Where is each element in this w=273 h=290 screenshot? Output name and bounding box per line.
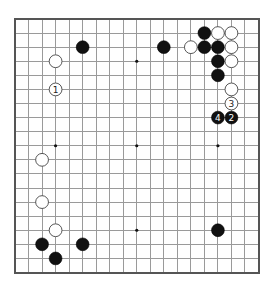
black-stone-disc bbox=[49, 252, 62, 265]
white-stone-disc bbox=[225, 83, 238, 96]
white-stone-disc bbox=[36, 153, 49, 166]
black-stone bbox=[212, 69, 225, 82]
white-stone-disc bbox=[212, 27, 225, 40]
white-stone bbox=[225, 55, 238, 68]
white-stone-disc bbox=[36, 196, 49, 209]
black-stone bbox=[49, 252, 62, 265]
white-stone bbox=[212, 27, 225, 40]
star-point bbox=[135, 229, 138, 232]
star-point bbox=[216, 144, 219, 147]
move-number-label: 4 bbox=[215, 113, 221, 123]
star-point bbox=[54, 144, 57, 147]
white-stone-disc bbox=[225, 27, 238, 40]
white-stone bbox=[225, 41, 238, 54]
white-stone-move-1: 1 bbox=[49, 83, 62, 96]
move-number-label: 3 bbox=[229, 99, 235, 109]
white-stone bbox=[184, 41, 197, 54]
move-number-label: 2 bbox=[229, 113, 235, 123]
black-stone bbox=[36, 238, 49, 251]
star-point bbox=[135, 144, 138, 147]
white-stone-disc bbox=[49, 224, 62, 237]
black-stone-disc bbox=[212, 41, 225, 54]
black-stone-move-4: 4 bbox=[212, 111, 225, 124]
black-stone-disc bbox=[212, 55, 225, 68]
black-stone bbox=[212, 55, 225, 68]
black-stone bbox=[212, 224, 225, 237]
white-stone-move-3: 3 bbox=[225, 97, 238, 110]
black-stone bbox=[76, 238, 89, 251]
black-stone-move-2: 2 bbox=[225, 111, 238, 124]
black-stone bbox=[157, 41, 170, 54]
white-stone-disc bbox=[184, 41, 197, 54]
white-stone-disc bbox=[225, 41, 238, 54]
move-number-label: 1 bbox=[53, 85, 59, 95]
black-stone-disc bbox=[76, 238, 89, 251]
white-stone-disc bbox=[49, 55, 62, 68]
white-stone bbox=[225, 27, 238, 40]
white-stone bbox=[36, 196, 49, 209]
go-board-diagram: 1342 bbox=[0, 0, 273, 290]
black-stone bbox=[76, 41, 89, 54]
black-stone-disc bbox=[198, 27, 211, 40]
black-stone bbox=[198, 41, 211, 54]
black-stone bbox=[198, 27, 211, 40]
black-stone-disc bbox=[212, 224, 225, 237]
black-stone bbox=[212, 41, 225, 54]
black-stone-disc bbox=[76, 41, 89, 54]
star-point bbox=[135, 60, 138, 63]
black-stone-disc bbox=[212, 69, 225, 82]
white-stone bbox=[225, 83, 238, 96]
black-stone-disc bbox=[198, 41, 211, 54]
white-stone bbox=[49, 55, 62, 68]
white-stone bbox=[49, 224, 62, 237]
black-stone-disc bbox=[36, 238, 49, 251]
black-stone-disc bbox=[157, 41, 170, 54]
white-stone bbox=[36, 153, 49, 166]
white-stone-disc bbox=[225, 55, 238, 68]
